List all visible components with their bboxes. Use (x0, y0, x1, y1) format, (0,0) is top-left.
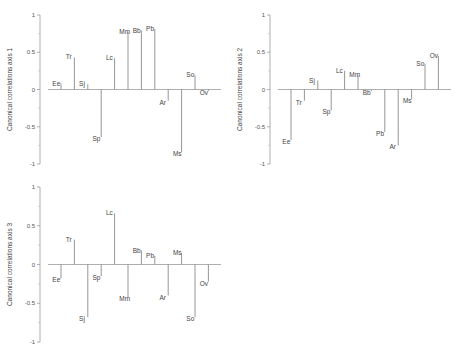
bar-ar: Ar (160, 90, 169, 106)
bar-pb: Pb (146, 25, 155, 89)
bar-mm: Mm (119, 28, 130, 89)
bar-sj: Sj (309, 77, 318, 90)
bar-mm: Mm (119, 265, 130, 303)
bar-label: Lc (106, 54, 114, 61)
y-axis-label: Canonical correlations axis 2 (236, 48, 243, 131)
bar-label: So (186, 315, 194, 322)
bar-label: Mm (119, 295, 130, 302)
bar-label: Bb (133, 247, 141, 254)
chart-panel-axis-2: 10.50-0.5-1Canonical correlations axis 2… (230, 0, 460, 175)
bar-label: Ar (390, 143, 397, 150)
bar-bb: Bb (133, 27, 142, 90)
bar-mm: Mm (349, 71, 360, 89)
bar-bb: Bb (363, 89, 372, 96)
bar-ee: Ee (52, 80, 61, 90)
bar-label: Sp (93, 274, 101, 282)
y-tick-label: -1 (260, 161, 266, 167)
bar-label: Sj (79, 80, 85, 88)
bar-label: Ee (52, 80, 60, 87)
bar-lc: Lc (336, 67, 345, 90)
bar-tr: Tr (66, 53, 75, 89)
bar-sp: Sp (323, 90, 332, 117)
y-tick-label: -1 (30, 161, 36, 167)
bar-pb: Pb (376, 90, 385, 137)
bar-label: Ar (160, 294, 167, 301)
bar-sp: Sp (93, 90, 102, 144)
bar-ms: Ms (173, 249, 182, 265)
bar-label: Mm (349, 71, 360, 78)
bar-label: Tr (66, 236, 73, 243)
y-tick-label: 1 (32, 184, 36, 190)
bar-ee: Ee (52, 265, 61, 284)
bar-label: Ov (430, 52, 439, 59)
bar-tr: Tr (66, 236, 75, 265)
bar-label: Sj (309, 77, 315, 85)
bar-label: Ov (200, 89, 209, 96)
bar-sj: Sj (79, 265, 88, 324)
bar-label: Ov (200, 280, 209, 287)
y-tick-label: 0.5 (27, 223, 36, 229)
bar-label: Sj (79, 315, 85, 323)
bar-label: Bb (133, 27, 141, 34)
bar-ov: Ov (200, 265, 209, 287)
y-tick-label: -0.5 (255, 124, 266, 130)
chart-panel-axis-1: 10.50-0.5-1Canonical correlations axis 1… (0, 0, 230, 175)
bar-label: Ar (160, 99, 167, 106)
bar-label: So (416, 60, 424, 67)
bar-lc: Lc (106, 209, 115, 264)
bar-label: Pb (376, 130, 384, 137)
bar-lc: Lc (106, 54, 115, 89)
y-tick-label: 0.5 (27, 49, 36, 55)
bar-label: Ms (403, 97, 412, 104)
bar-tr: Tr (296, 90, 305, 106)
bar-so: So (186, 265, 195, 323)
bar-ov: Ov (430, 52, 439, 90)
bar-label: Pb (146, 25, 154, 32)
chart-axis-2: 10.50-0.5-1Canonical correlations axis 2… (230, 0, 460, 175)
y-tick-label: -1 (30, 339, 36, 345)
bar-label: Ee (282, 138, 290, 145)
bar-label: Mm (119, 28, 130, 35)
y-tick-label: 0 (262, 87, 266, 93)
y-tick-label: 0.5 (257, 49, 266, 55)
chart-axis-1: 10.50-0.5-1Canonical correlations axis 1… (0, 0, 230, 175)
bar-label: So (186, 71, 194, 78)
bar-label: Ms (173, 249, 182, 256)
bar-pb: Pb (146, 252, 155, 265)
y-axis-label: Canonical correlations axis 1 (6, 48, 13, 131)
bar-ms: Ms (173, 90, 182, 158)
bar-ar: Ar (390, 90, 399, 151)
bar-ov: Ov (200, 89, 209, 96)
y-tick-label: 0 (32, 262, 36, 268)
bar-so: So (416, 60, 425, 89)
bar-ee: Ee (282, 90, 291, 146)
bar-sp: Sp (93, 265, 102, 283)
bar-label: Ms (173, 150, 182, 157)
bar-label: Sp (93, 135, 101, 143)
y-tick-label: 0 (32, 87, 36, 93)
y-tick-label: 1 (262, 12, 266, 18)
bar-ms: Ms (403, 90, 412, 105)
chart-axis-3: 10.50-0.5-1Canonical correlations axis 3… (0, 175, 230, 353)
bar-ar: Ar (160, 265, 169, 301)
bar-label: Tr (296, 99, 303, 106)
bar-label: Lc (106, 209, 114, 216)
bar-sj: Sj (79, 80, 88, 89)
bar-label: Tr (66, 53, 73, 60)
y-tick-label: -0.5 (25, 300, 36, 306)
bar-label: Sp (323, 108, 331, 116)
bar-label: Pb (146, 252, 154, 259)
y-tick-label: -0.5 (25, 124, 36, 130)
y-axis-label: Canonical correlations axis 3 (6, 223, 13, 306)
y-tick-label: 1 (32, 12, 36, 18)
chart-panel-axis-3: 10.50-0.5-1Canonical correlations axis 3… (0, 175, 230, 353)
bar-bb: Bb (133, 247, 142, 265)
bar-label: Lc (336, 67, 344, 74)
bar-label: Ee (52, 276, 60, 283)
bar-so: So (186, 71, 195, 89)
bar-label: Bb (363, 89, 371, 96)
